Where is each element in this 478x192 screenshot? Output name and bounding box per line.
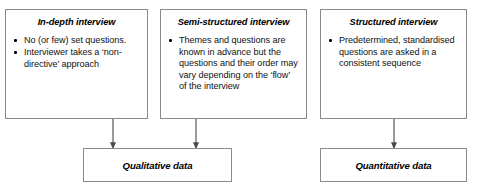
interview-type-title: In-depth interview bbox=[13, 17, 140, 28]
interview-type-box-in-depth: In-depth interview No (or few) set quest… bbox=[5, 9, 148, 119]
interview-type-points: No (or few) set questions. Interviewer t… bbox=[13, 35, 140, 70]
interview-type-title: Structured interview bbox=[328, 17, 459, 28]
interview-type-title: Semi-structured interview bbox=[168, 17, 299, 28]
list-item: No (or few) set questions. bbox=[13, 35, 140, 47]
list-item-text: Interviewer takes a ‘non-directive’ appr… bbox=[24, 47, 122, 69]
list-item: Interviewer takes a ‘non-directive’ appr… bbox=[13, 47, 140, 70]
interview-type-box-structured: Structured interview Predetermined, stan… bbox=[320, 9, 467, 119]
list-item-text: Predetermined, standardised questions ar… bbox=[339, 35, 454, 68]
interview-type-points: Themes and questions are known in advanc… bbox=[168, 35, 299, 93]
list-item-text: Themes and questions are known in advanc… bbox=[179, 35, 298, 91]
bullet-icon bbox=[169, 39, 172, 42]
outcome-label: Qualitative data bbox=[123, 160, 193, 171]
bullet-icon bbox=[14, 39, 17, 42]
bullet-icon bbox=[329, 39, 332, 42]
interview-types-diagram: In-depth interview No (or few) set quest… bbox=[0, 0, 478, 192]
outcome-box-quantitative: Quantitative data bbox=[320, 148, 467, 182]
list-item: Predetermined, standardised questions ar… bbox=[328, 35, 459, 70]
interview-type-box-semi-structured: Semi-structured interview Themes and que… bbox=[160, 9, 307, 119]
list-item-text: No (or few) set questions. bbox=[24, 35, 126, 45]
interview-type-points: Predetermined, standardised questions ar… bbox=[328, 35, 459, 70]
list-item: Themes and questions are known in advanc… bbox=[168, 35, 299, 93]
outcome-box-qualitative: Qualitative data bbox=[83, 148, 232, 182]
bullet-icon bbox=[14, 51, 17, 54]
outcome-label: Quantitative data bbox=[355, 160, 431, 171]
